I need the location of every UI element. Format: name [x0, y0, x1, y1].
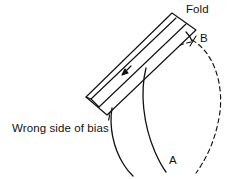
solid-curve-a — [143, 68, 166, 172]
label-wrong-side-of-bias: Wrong side of bias — [12, 123, 109, 135]
dashed-curve-b-outer — [192, 40, 221, 173]
bias-strip — [86, 13, 196, 115]
diagram-canvas — [0, 0, 234, 179]
label-point-b: B — [200, 33, 208, 45]
solid-curve-left — [111, 108, 133, 176]
label-point-a: A — [169, 155, 177, 167]
label-fold: Fold — [186, 4, 209, 16]
strip-outline — [86, 13, 196, 115]
bias-strip-diagram: Fold B A Wrong side of bias — [0, 0, 234, 179]
